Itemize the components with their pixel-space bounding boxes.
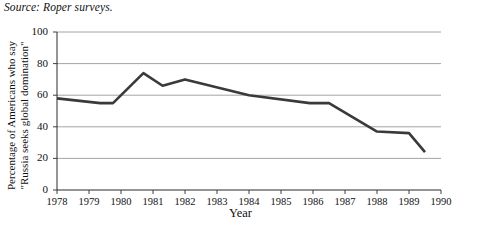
chart-figure: Source: Roper surveys. Percentage of Ame… xyxy=(0,0,481,228)
plot-area xyxy=(0,0,481,228)
y-tick-label: 80 xyxy=(22,58,48,69)
x-axis-title: Year xyxy=(0,206,481,221)
y-tick-label: 20 xyxy=(22,152,48,163)
y-tick-label: 60 xyxy=(22,89,48,100)
y-tick-label: 0 xyxy=(22,184,48,195)
data-series-line xyxy=(57,73,425,152)
y-axis-ticks xyxy=(53,32,57,190)
y-tick-label: 40 xyxy=(22,121,48,132)
y-tick-label: 100 xyxy=(22,26,48,37)
x-axis-ticks xyxy=(57,190,441,194)
